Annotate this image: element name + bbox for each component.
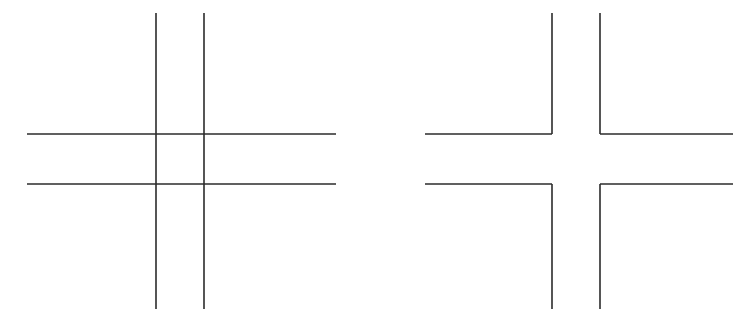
canvas-background	[0, 0, 746, 324]
figure-canvas	[0, 0, 746, 324]
